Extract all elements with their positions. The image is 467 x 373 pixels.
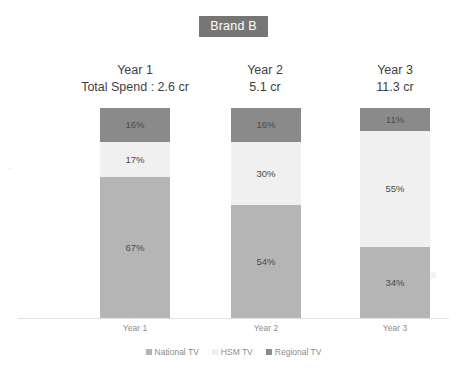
x-axis-tick-year-1: Year 1 [100,323,170,333]
bar-segment-label: 55% [385,183,404,194]
column-header-year-label-3: Year 3 [330,62,460,79]
page-artifact-left [8,168,12,169]
column-header-year-3: Year 3 11.3 cr [330,62,460,95]
legend-item-national-tv[interactable]: National TV [146,347,199,357]
bar-segment-label: 16% [256,119,275,130]
legend-swatch-icon [212,349,218,355]
legend-item-regional-tv[interactable]: Regional TV [266,347,322,357]
bar-segment-label: 17% [125,154,144,165]
bar-segment-national-tv-year-3[interactable]: 34% [360,247,430,318]
bar-segment-label: 34% [385,277,404,288]
x-axis-tick-year-3: Year 3 [360,323,430,333]
column-headers: Year 1 Total Spend : 2.6 cr Year 2 5.1 c… [0,62,467,104]
bar-segment-national-tv-year-2[interactable]: 54% [231,205,301,318]
legend-item-label: HSM TV [221,347,253,357]
bar-segment-label: 11% [386,114,404,125]
stacked-bar-year-1[interactable]: 16% 17% 67% [100,108,170,318]
x-axis-tick-year-2: Year 2 [231,323,301,333]
plot-area: 16% 17% 67% 16% 30% 54% 11% 55% 34% [0,108,467,318]
column-header-year-label-2: Year 2 [200,62,330,79]
bar-segment-label: 16% [125,119,144,130]
bar-segment-regional-tv-year-2[interactable]: 16% [231,108,301,142]
bar-segment-national-tv-year-1[interactable]: 67% [100,177,170,318]
legend-item-hsm-tv[interactable]: HSM TV [212,347,253,357]
bar-segment-regional-tv-year-1[interactable]: 16% [100,108,170,142]
legend-swatch-icon [146,349,152,355]
column-header-spend-label-3: 11.3 cr [330,79,460,96]
chart-legend: National TV HSM TV Regional TV [0,347,467,357]
column-header-year-2: Year 2 5.1 cr [200,62,330,95]
chart-title-badge: Brand B [199,16,268,37]
bar-segment-hsm-tv-year-2[interactable]: 30% [231,142,301,205]
legend-item-label: National TV [155,347,199,357]
legend-item-label: Regional TV [275,347,322,357]
legend-swatch-icon [266,349,272,355]
bar-segment-regional-tv-year-3[interactable]: 11% [360,108,430,131]
page-artifact-right [430,272,436,279]
bar-segment-label: 54% [256,256,275,267]
x-axis-line [18,318,449,319]
stacked-bar-year-3[interactable]: 11% 55% 34% [360,108,430,318]
stacked-bar-year-2[interactable]: 16% 30% 54% [231,108,301,318]
bar-segment-label: 30% [256,168,275,179]
chart-title-container: Brand B [0,16,467,37]
bar-segment-hsm-tv-year-3[interactable]: 55% [360,131,430,247]
x-axis-tick-labels: Year 1 Year 2 Year 3 [0,323,467,339]
bar-segment-hsm-tv-year-1[interactable]: 17% [100,142,170,178]
column-header-spend-label-2: 5.1 cr [200,79,330,96]
bar-segment-label: 67% [125,242,144,253]
